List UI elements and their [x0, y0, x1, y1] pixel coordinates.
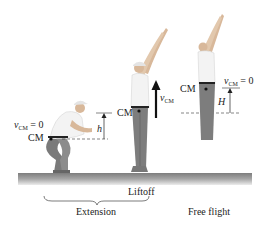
- height-H-label: H: [218, 97, 225, 107]
- peak-person: [198, 14, 224, 140]
- liftoff-caption: Liftoff: [128, 186, 154, 197]
- free-flight-caption: Free flight: [188, 206, 230, 217]
- ground: [18, 173, 252, 185]
- crouching-person: [46, 101, 92, 173]
- cm-label-crouch: CM: [28, 133, 44, 143]
- cm-label-liftoff: CM: [117, 108, 133, 118]
- cm-dot-peak: [204, 87, 207, 90]
- cm-label-peak: CM: [180, 84, 196, 94]
- h-arrow-head: [102, 113, 107, 118]
- velocity-arrow-head: [152, 80, 161, 90]
- extension-brace: [44, 196, 149, 205]
- extension-caption: Extension: [76, 206, 116, 217]
- velocity-label-liftoff: vCM: [160, 93, 174, 106]
- cm-dot-liftoff: [137, 109, 140, 112]
- velocity-zero-label-peak: vCM = 0: [224, 76, 253, 89]
- cm-dot-crouch: [49, 137, 52, 140]
- height-h-label: h: [97, 124, 102, 134]
